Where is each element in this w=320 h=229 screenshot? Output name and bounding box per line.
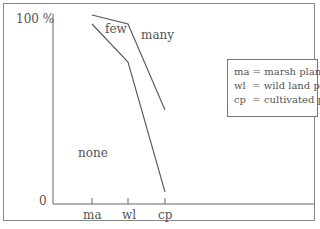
legend-entry-cp: cp = cultivated plants (234, 93, 311, 107)
region-label-many: many (141, 29, 174, 41)
x-tick-wl: wl (122, 209, 136, 221)
x-tick-cp: cp (158, 209, 172, 221)
x-tick-ma: ma (83, 209, 102, 221)
lower-boundary-line (92, 24, 165, 192)
legend-entry-wl: wl = wild land plants (234, 79, 311, 93)
legend-entry-ma: ma = marsh plants (234, 65, 311, 79)
region-label-few: few (105, 23, 127, 35)
y-tick-0: 0 (39, 195, 47, 207)
region-label-none: none (78, 147, 108, 159)
y-tick-100: 100 % (16, 13, 54, 25)
legend: ma = marsh plants wl = wild land plants … (227, 59, 318, 117)
